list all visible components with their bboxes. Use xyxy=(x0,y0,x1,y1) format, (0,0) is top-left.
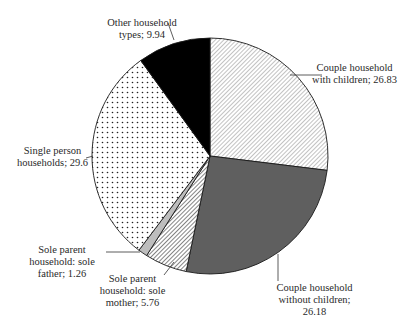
slice-label: Couple household without children; 26.18 xyxy=(262,282,367,318)
slice-label: Single person households; 29.6 xyxy=(10,145,95,169)
slice-label: Couple household with children; 26.83 xyxy=(292,62,415,86)
pie-slice-couple-household-without-children xyxy=(186,156,327,274)
slice-label: Sole parent household: sole mother; 5.76 xyxy=(95,273,170,309)
slice-label: Sole parent household: sole father; 1.26 xyxy=(22,244,102,280)
pie-slice-couple-household-with-children xyxy=(210,38,328,170)
slice-label: Other household types; 9.94 xyxy=(82,17,202,41)
